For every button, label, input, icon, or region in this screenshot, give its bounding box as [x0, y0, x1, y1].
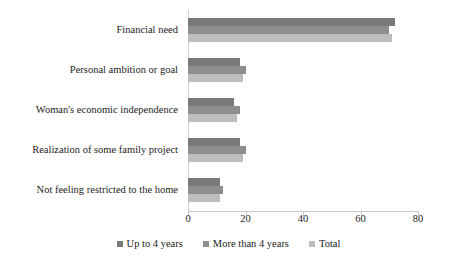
bar-group — [188, 98, 418, 122]
x-axis-tick-label: 60 — [341, 213, 381, 225]
bar-group — [188, 138, 418, 162]
category-label: Woman's economic independence — [36, 104, 178, 116]
bar — [188, 34, 392, 42]
bar — [188, 186, 223, 194]
plot-area — [188, 10, 418, 210]
chart-legend: Up to 4 yearsMore than 4 yearsTotal — [0, 238, 457, 250]
x-axis-tick-label: 40 — [283, 213, 323, 225]
category-label: Not feeling restricted to the home — [37, 184, 178, 196]
bar — [188, 194, 220, 202]
bar-group — [188, 178, 418, 202]
legend-swatch-icon — [117, 241, 123, 247]
legend-entry[interactable]: More than 4 years — [203, 238, 289, 250]
bar — [188, 178, 220, 186]
bar-group — [188, 58, 418, 82]
bar — [188, 154, 243, 162]
x-axis-tick-label: 80 — [398, 213, 438, 225]
bar — [188, 114, 237, 122]
bar-chart: Financial needPersonal ambition or goalW… — [0, 0, 457, 269]
legend-entry[interactable]: Total — [309, 238, 340, 250]
category-axis-labels: Financial needPersonal ambition or goalW… — [0, 10, 184, 210]
legend-label: Up to 4 years — [127, 238, 183, 250]
bar — [188, 66, 246, 74]
legend-label: Total — [319, 238, 340, 250]
bar — [188, 26, 389, 34]
bar-group — [188, 18, 418, 42]
bar — [188, 98, 234, 106]
legend-entry[interactable]: Up to 4 years — [117, 238, 183, 250]
bar — [188, 138, 240, 146]
bar — [188, 58, 240, 66]
category-label: Personal ambition or goal — [70, 64, 178, 76]
x-axis-tick-label: 0 — [168, 213, 208, 225]
category-label: Realization of some family project — [32, 144, 178, 156]
bar — [188, 146, 246, 154]
x-axis-tick-label: 20 — [226, 213, 266, 225]
legend-swatch-icon — [203, 241, 209, 247]
category-label: Financial need — [116, 24, 178, 36]
legend-label: More than 4 years — [213, 238, 289, 250]
bar — [188, 74, 243, 82]
bar — [188, 18, 395, 26]
bar — [188, 106, 240, 114]
legend-swatch-icon — [309, 241, 315, 247]
